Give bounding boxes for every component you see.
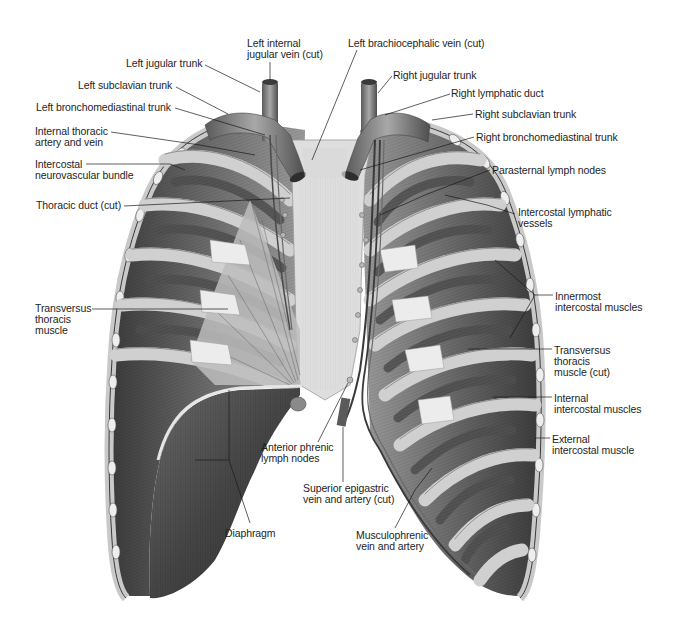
label-internal-thoracic-artery-and-vein: Internal thoracic artery and vein (35, 126, 108, 148)
label-thoracic-duct: Thoracic duct (cut) (36, 200, 121, 211)
label-internal-intercostal-muscles: Internal intercostal muscles (554, 393, 641, 415)
label-left-jugular-trunk: Left jugular trunk (126, 58, 202, 69)
label-anterior-phrenic-lymph-nodes: Anterior phrenic lymph nodes (261, 442, 334, 464)
leader-line-left-jugular-trunk (205, 65, 260, 92)
label-diaphragm: Diaphragm (225, 528, 275, 539)
anatomy-illustration (0, 0, 678, 632)
label-intercostal-neurovascular-bundle: Intercostal neurovascular bundle (35, 159, 133, 181)
label-left-subclavian-trunk: Left subclavian trunk (78, 80, 172, 91)
label-transversus-thoracis-muscle: Transversus thoracis muscle (35, 303, 91, 336)
label-external-intercostal-muscle: External intercostal muscle (552, 434, 634, 456)
label-right-bronchomediastinal-trunk: Right bronchomediastinal trunk (476, 132, 618, 143)
label-right-jugular-trunk: Right jugular trunk (393, 70, 476, 81)
leader-line-left-subclavian-trunk (176, 87, 228, 114)
leader-line-right-jugular-trunk (378, 76, 392, 93)
label-right-lymphatic-duct: Right lymphatic duct (451, 88, 544, 99)
label-right-subclavian-trunk: Right subclavian trunk (475, 109, 576, 120)
label-superior-epigastric-vein-and-artery: Superior epigastric vein and artery (cut… (303, 483, 394, 505)
label-parasternal-lymph-nodes: Parasternal lymph nodes (492, 165, 606, 176)
label-innermost-intercostal-muscles: Innermost intercostal muscles (555, 291, 642, 313)
leader-line-right-subclavian-trunk (432, 114, 473, 120)
label-intercostal-lymphatic-vessels: Intercostal lymphatic vessels (518, 207, 612, 229)
label-left-internal-jugular-vein: Left internal jugular vein (cut) (247, 38, 323, 60)
leader-line-right-lymphatic-duct (385, 94, 450, 115)
label-transversus-thoracis-muscle-cut: Transversus thoracis muscle (cut) (554, 345, 610, 378)
label-musculophrenic-vein-and-artery: Musculophrenic vein and artery (356, 530, 428, 552)
label-left-brachiocephalic-vein: Left brachiocephalic vein (cut) (348, 38, 484, 49)
label-left-bronchomediastinal-trunk: Left bronchomediastinal trunk (36, 102, 171, 113)
